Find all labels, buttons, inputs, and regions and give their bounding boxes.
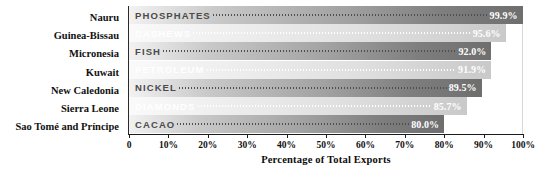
category-label: Sierra Leone: [0, 103, 119, 114]
bar-commodity-label: PETROLEUM: [129, 64, 205, 75]
bar-value-label: 80.0%: [411, 119, 444, 130]
bar-value-label: 95.6%: [473, 28, 506, 39]
x-tick-mark: [365, 134, 366, 138]
bar-row: FISH92.0%: [129, 42, 523, 60]
bar-commodity-label: CASHEWS: [129, 28, 191, 39]
dotted-leader: [192, 24, 472, 42]
bar-commodity-label: FISH: [129, 46, 161, 57]
bar: CACAO80.0%: [129, 115, 444, 133]
bar-value-label: 91.9%: [458, 64, 491, 75]
category-label: Sao Tomé and Príncipe: [0, 121, 119, 132]
x-tick-label: 10%: [159, 140, 178, 150]
bar-value-label: 99.9%: [490, 10, 523, 21]
x-tick-label: 20%: [198, 140, 217, 150]
bar-commodity-label: PHOSPHATES: [129, 10, 211, 21]
category-label: New Caledonia: [0, 85, 119, 96]
category-label: Micronesia: [0, 48, 119, 59]
bar-value-label: 89.5%: [449, 82, 482, 93]
category-label: Guinea-Bissau: [0, 30, 119, 41]
bar-row: PHOSPHATES99.9%: [129, 6, 523, 24]
bar: FISH92.0%: [129, 42, 491, 60]
x-tick-mark: [287, 134, 288, 138]
dotted-leader: [176, 115, 411, 133]
bar-row: CASHEWS95.6%: [129, 24, 523, 42]
x-tick-label: 70%: [395, 140, 414, 150]
dotted-leader: [178, 79, 449, 97]
x-tick-mark: [208, 134, 209, 138]
bar: CASHEWS95.6%: [129, 24, 506, 42]
x-tick-label: 100%: [511, 140, 535, 150]
bars-area: PHOSPHATES99.9%CASHEWS95.6%FISH92.0%PETR…: [129, 6, 523, 134]
category-label: Nauru: [0, 12, 119, 23]
x-tick-mark: [523, 134, 524, 138]
dotted-leader: [162, 42, 458, 60]
bar-row: DIAMONDS85.7%: [129, 97, 523, 115]
x-tick-label: 0: [127, 140, 132, 150]
x-tick-label: 80%: [435, 140, 454, 150]
x-tick-mark: [444, 134, 445, 138]
dotted-leader: [197, 97, 434, 115]
bar-value-label: 92.0%: [458, 46, 491, 57]
x-tick-mark: [129, 134, 130, 138]
x-tick-mark: [405, 134, 406, 138]
x-tick-mark: [326, 134, 327, 138]
dotted-leader: [212, 6, 490, 24]
x-tick-label: 40%: [277, 140, 296, 150]
bar-value-label: 85.7%: [434, 101, 467, 112]
bar: NICKEL89.5%: [129, 79, 482, 97]
x-tick-mark: [168, 134, 169, 138]
x-tick-mark: [247, 134, 248, 138]
bar-commodity-label: NICKEL: [129, 82, 177, 93]
bar-row: CACAO80.0%: [129, 115, 523, 133]
dotted-leader: [206, 61, 459, 79]
export-percentage-bar-chart: NauruGuinea-BissauMicronesiaKuwaitNew Ca…: [0, 0, 548, 175]
x-tick-label: 30%: [238, 140, 257, 150]
x-tick-label: 60%: [356, 140, 375, 150]
bar: PETROLEUM91.9%: [129, 61, 491, 79]
x-axis-title: Percentage of Total Exports: [129, 154, 523, 165]
category-label: Kuwait: [0, 67, 119, 78]
bar-row: PETROLEUM91.9%: [129, 61, 523, 79]
bar: PHOSPHATES99.9%: [129, 6, 523, 24]
bar-commodity-label: DIAMONDS: [129, 101, 196, 112]
x-tick-label: 50%: [317, 140, 336, 150]
bar-row: NICKEL89.5%: [129, 79, 523, 97]
x-tick-mark: [484, 134, 485, 138]
x-tick-label: 90%: [474, 140, 493, 150]
bar-commodity-label: CACAO: [129, 119, 175, 130]
category-axis-labels: NauruGuinea-BissauMicronesiaKuwaitNew Ca…: [0, 8, 124, 133]
bar: DIAMONDS85.7%: [129, 97, 467, 115]
